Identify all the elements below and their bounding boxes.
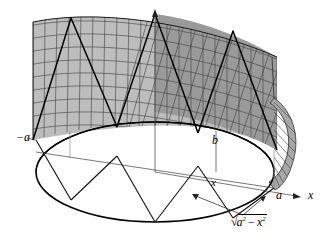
radical-expression: √a2−x2 [231, 215, 267, 230]
label-minus-a: −a [16, 130, 30, 145]
label-radicand: √a2−x2 [231, 215, 267, 230]
label-x-point: x [211, 176, 216, 188]
x-axis-arrowhead [293, 193, 301, 199]
radical-vinculum: a2−x2 [237, 214, 267, 229]
label-a: a [276, 188, 282, 203]
figure-canvas [0, 0, 327, 242]
math-figure: −a b x a x √a2−x2 [0, 0, 327, 242]
label-b: b [212, 133, 218, 148]
radicand-x-exponent: 2 [262, 215, 266, 223]
radicand-minus: − [246, 215, 257, 229]
label-x-axis: x [308, 188, 313, 203]
z-axis-arrowhead [152, 9, 158, 17]
